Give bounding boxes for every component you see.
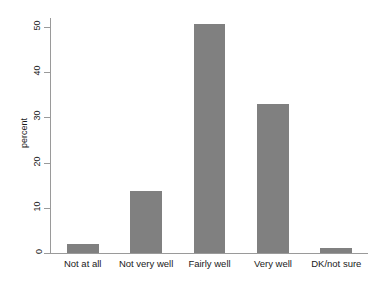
x-tick-label: Fairly well bbox=[178, 258, 241, 269]
y-tick-label: 30 bbox=[0, 111, 42, 120]
y-tick-label: 50 bbox=[0, 21, 42, 30]
bar bbox=[194, 24, 226, 253]
bar bbox=[257, 104, 289, 253]
bar bbox=[130, 191, 162, 253]
x-tick-label: DK/not sure bbox=[305, 258, 368, 269]
y-tick-label-text: 20 bbox=[32, 156, 41, 166]
y-axis-title: percent bbox=[0, 128, 54, 138]
bar bbox=[320, 248, 352, 253]
y-tick-label-text: 40 bbox=[32, 66, 41, 76]
y-axis-title-text: percent bbox=[19, 118, 29, 148]
bar bbox=[67, 244, 99, 253]
y-tick-label: 40 bbox=[0, 66, 42, 75]
y-tick-label-text: 50 bbox=[32, 21, 41, 31]
y-tick-mark bbox=[44, 253, 50, 254]
plot-area bbox=[51, 18, 368, 253]
y-tick-label-text: 30 bbox=[32, 111, 41, 121]
bar-chart: percent 01020304050 Not at allNot very w… bbox=[0, 0, 380, 294]
y-tick-label-text: 10 bbox=[32, 201, 41, 211]
y-tick-mark bbox=[44, 208, 50, 209]
x-tick-label: Very well bbox=[241, 258, 304, 269]
y-tick-mark bbox=[44, 163, 50, 164]
x-tick-label: Not at all bbox=[51, 258, 114, 269]
y-tick-label: 20 bbox=[0, 157, 42, 166]
x-axis-line bbox=[50, 253, 368, 254]
y-tick-label-text: 0 bbox=[35, 249, 44, 254]
y-tick-label: 0 bbox=[0, 247, 42, 256]
x-tick-label: Not very well bbox=[114, 258, 177, 269]
y-tick-mark bbox=[44, 117, 50, 118]
y-tick-mark bbox=[44, 27, 50, 28]
y-tick-label: 10 bbox=[0, 202, 42, 211]
y-tick-mark bbox=[44, 72, 50, 73]
